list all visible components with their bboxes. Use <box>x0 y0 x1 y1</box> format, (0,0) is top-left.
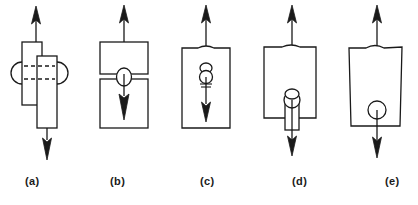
panel-e-bottom-arrowhead <box>373 137 382 158</box>
panel-a-left-arc <box>11 62 22 84</box>
panel-e-drawing <box>332 0 418 205</box>
caption-b: (b) <box>110 175 125 187</box>
panel-e <box>332 0 418 205</box>
panel-a-drawing <box>0 0 88 205</box>
panel-a-right-bar <box>37 56 57 128</box>
panel-b-drawing <box>88 0 168 205</box>
panel-d-circle-cap <box>285 89 299 99</box>
figure-root: (a) (b) (c) (d) (e) <box>0 0 418 205</box>
caption-c: (c) <box>200 175 215 187</box>
panel-b <box>88 0 168 205</box>
caption-d: (d) <box>292 175 307 187</box>
caption-a: (a) <box>25 175 40 187</box>
panel-d <box>248 0 332 205</box>
panel-a <box>0 0 88 205</box>
panel-d-drawing <box>248 0 332 205</box>
caption-e: (e) <box>385 175 400 187</box>
panel-a-right-arc <box>57 62 68 84</box>
panel-a-bottom-arrowhead <box>43 138 52 160</box>
